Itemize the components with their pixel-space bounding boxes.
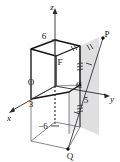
axis-label-z: z — [50, 3, 54, 12]
lower-bottom-left-front — [31, 141, 68, 149]
tick-label-z-minus-6: −6 — [38, 122, 48, 131]
shaded-plane-upper — [80, 37, 99, 93]
point-label-P: P — [104, 30, 109, 39]
cube-bottom-front-left — [31, 92, 69, 99]
shaded-plane-group — [69, 37, 99, 135]
tick-label-z-6: 6 — [42, 32, 47, 41]
point-label-O: O — [28, 78, 35, 87]
tick-label-y-5: 5 — [84, 96, 89, 105]
x-axis-line — [13, 86, 55, 110]
geometry-figure: x y z 6 3 5 −6 O F C P Q — [0, 0, 120, 162]
axis-label-x: x — [7, 114, 11, 123]
point-label-C: C — [76, 81, 82, 90]
point-label-Q: Q — [67, 152, 74, 161]
tick-label-x-3: 3 — [29, 100, 34, 109]
figure-canvas — [0, 0, 120, 162]
axis-label-y: y — [110, 95, 114, 104]
point-label-F: F — [57, 58, 62, 67]
